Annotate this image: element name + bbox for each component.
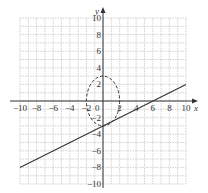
- y-tick-label: −6: [91, 146, 101, 156]
- x-tick-label: −8: [32, 103, 42, 113]
- x-tick-label: 8: [167, 103, 172, 113]
- y-tick-label: 8: [97, 30, 102, 40]
- y-axis-arrow-icon: [101, 7, 106, 13]
- y-tick-label: 6: [97, 46, 102, 56]
- x-axis-label: x: [193, 103, 198, 113]
- axes: xy: [10, 6, 198, 188]
- y-tick-label: 10: [92, 13, 102, 23]
- x-tick-label: 0: [95, 103, 100, 113]
- y-tick-label: −8: [91, 162, 101, 172]
- x-tick-label: −6: [48, 103, 58, 113]
- x-tick-label: −10: [13, 103, 28, 113]
- x-tick-label: 10: [182, 103, 192, 113]
- x-tick-label: −4: [65, 103, 75, 113]
- y-tick-label: −10: [87, 179, 102, 189]
- x-tick-label: 6: [151, 103, 156, 113]
- y-tick-label: −2: [91, 113, 101, 123]
- coordinate-plane-chart: xy −10−8−6−4−20246810−10−8−6−4−2246810: [0, 0, 208, 193]
- y-tick-label: 4: [97, 63, 102, 73]
- y-tick-label: 2: [97, 79, 102, 89]
